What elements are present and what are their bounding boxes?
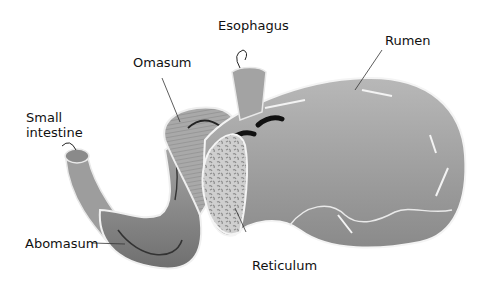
label-esophagus: Esophagus — [218, 18, 289, 33]
omasum-leader-line — [162, 78, 180, 122]
label-omasum: Omasum — [133, 55, 192, 70]
label-reticulum: Reticulum — [252, 258, 317, 273]
esophagus-shape — [232, 50, 266, 120]
label-abomasum: Abomasum — [25, 236, 98, 251]
label-small-intestine: Small intestine — [26, 110, 83, 140]
label-rumen: Rumen — [385, 33, 431, 48]
